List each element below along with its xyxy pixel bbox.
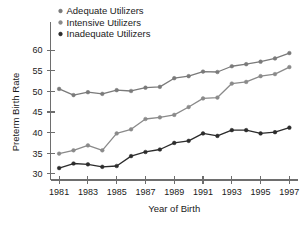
- data-point: [72, 93, 76, 97]
- data-point: [100, 148, 104, 152]
- data-point: [172, 141, 176, 145]
- data-point: [57, 87, 61, 91]
- data-point: [129, 89, 133, 93]
- x-tick-label: 1993: [222, 187, 242, 197]
- y-axis-title: Preterm Birth Rate: [10, 73, 21, 152]
- y-tick-label: 40: [32, 128, 42, 138]
- data-point: [187, 139, 191, 143]
- data-point: [288, 65, 292, 69]
- x-tick-label: 1981: [49, 187, 69, 197]
- data-point: [288, 51, 292, 55]
- data-point: [216, 70, 220, 74]
- data-point: [201, 70, 205, 74]
- x-tick-label: 1997: [279, 187, 299, 197]
- preterm-birth-rate-line-chart: 3035404550556019811983198519871989199119…: [0, 0, 308, 225]
- data-point: [100, 165, 104, 169]
- data-point: [244, 80, 248, 84]
- data-point: [86, 144, 90, 148]
- data-point: [172, 76, 176, 80]
- chart-legend: Adequate UtilizersIntensive UtilizersIna…: [59, 5, 151, 39]
- data-point: [172, 113, 176, 117]
- x-tick-label: 1991: [193, 187, 213, 197]
- data-point: [86, 162, 90, 166]
- x-tick-label: 1983: [78, 187, 98, 197]
- y-tick-label: 35: [32, 149, 42, 159]
- data-point: [144, 86, 148, 90]
- data-point: [216, 96, 220, 100]
- data-point: [57, 152, 61, 156]
- data-point: [201, 97, 205, 101]
- legend-marker: [59, 32, 63, 36]
- x-tick-label: 1985: [107, 187, 127, 197]
- data-point: [288, 126, 292, 130]
- data-point: [259, 132, 263, 136]
- legend-marker: [59, 21, 63, 25]
- y-tick-label: 50: [32, 87, 42, 97]
- data-point: [144, 117, 148, 121]
- legend-label: Intensive Utilizers: [67, 17, 142, 28]
- data-point: [273, 57, 277, 61]
- data-point: [158, 85, 162, 89]
- data-point: [57, 166, 61, 170]
- data-point: [187, 105, 191, 109]
- data-point: [158, 148, 162, 152]
- legend-marker: [59, 9, 63, 13]
- legend-label: Adequate Utilizers: [67, 5, 144, 16]
- data-point: [100, 92, 104, 96]
- data-point: [72, 148, 76, 152]
- data-point: [244, 62, 248, 66]
- data-point: [115, 88, 119, 92]
- y-tick-label: 30: [32, 169, 42, 179]
- y-tick-label: 60: [32, 45, 42, 55]
- legend-label: Inadequate Utilizers: [67, 28, 151, 39]
- data-point: [129, 127, 133, 131]
- data-point: [273, 130, 277, 134]
- data-point: [273, 72, 277, 76]
- x-tick-label: 1989: [164, 187, 184, 197]
- data-point: [230, 64, 234, 68]
- data-point: [259, 60, 263, 64]
- data-point: [115, 164, 119, 168]
- data-point: [115, 132, 119, 136]
- data-point: [72, 162, 76, 166]
- data-point: [144, 150, 148, 154]
- y-tick-label: 45: [32, 107, 42, 117]
- chart-container: 3035404550556019811983198519871989199119…: [0, 0, 308, 225]
- data-point: [216, 134, 220, 138]
- data-point: [129, 154, 133, 158]
- y-tick-label: 55: [32, 66, 42, 76]
- data-point: [201, 132, 205, 136]
- data-point: [230, 128, 234, 132]
- data-point: [187, 74, 191, 78]
- data-point: [230, 82, 234, 86]
- x-tick-label: 1995: [251, 187, 271, 197]
- data-point: [158, 116, 162, 120]
- data-point: [259, 74, 263, 78]
- x-tick-label: 1987: [135, 187, 155, 197]
- data-point: [86, 90, 90, 94]
- data-point: [244, 128, 248, 132]
- x-axis-title: Year of Birth: [148, 203, 200, 214]
